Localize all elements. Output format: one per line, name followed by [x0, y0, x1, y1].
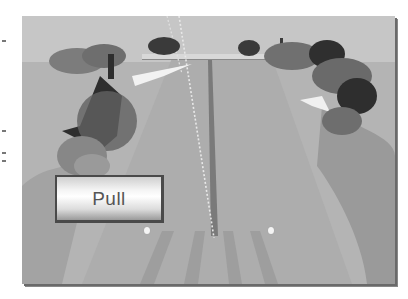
scenery: [22, 16, 395, 284]
margin-mark: [2, 40, 6, 42]
pull-button-label: Pull: [92, 188, 126, 210]
margin-mark: [2, 130, 6, 132]
right-marker: [268, 227, 274, 234]
left-marker: [144, 227, 150, 234]
pull-button[interactable]: Pull: [55, 175, 164, 223]
game-viewport[interactable]: Pull: [22, 16, 395, 284]
margin-mark: [2, 152, 6, 154]
margin-mark: [2, 160, 6, 162]
